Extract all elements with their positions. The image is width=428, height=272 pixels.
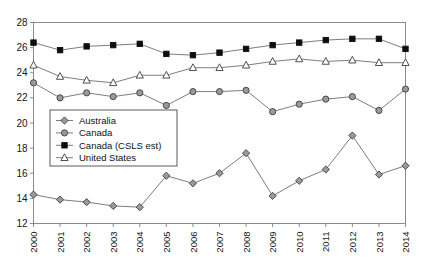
data-point-marker	[189, 64, 196, 71]
data-point-marker	[323, 37, 328, 42]
data-point-marker	[56, 73, 63, 80]
x-tick-label: 2006	[188, 232, 199, 253]
data-point-marker	[296, 101, 302, 107]
chart-legend: AustraliaCanadaCanada (CSLS est)United S…	[50, 110, 177, 166]
data-point-marker	[84, 90, 90, 96]
data-point-marker	[30, 61, 37, 68]
x-tick-label: 2013	[374, 232, 385, 253]
data-point-marker	[111, 42, 116, 47]
x-tick-label: 2010	[294, 232, 305, 253]
y-tick-label: 20	[16, 118, 28, 129]
series-canada	[30, 80, 408, 115]
data-point-marker	[62, 143, 67, 148]
data-point-marker	[270, 42, 275, 47]
data-point-marker	[402, 162, 409, 169]
y-tick-label: 18	[16, 143, 28, 154]
data-point-marker	[110, 94, 116, 100]
x-tick-label: 2002	[81, 232, 92, 253]
series-canada-csls-est	[31, 36, 408, 58]
data-point-marker	[57, 47, 62, 52]
legend-item-label: Canada	[79, 127, 113, 138]
data-point-marker	[243, 87, 249, 93]
data-point-marker	[270, 109, 276, 115]
data-point-marker	[61, 130, 67, 136]
data-point-marker	[376, 107, 382, 113]
x-tick-label: 2014	[400, 232, 411, 253]
data-point-marker	[30, 191, 37, 198]
x-tick-label: 2000	[28, 232, 39, 253]
x-tick-label: 2012	[347, 232, 358, 253]
y-tick-label: 14	[16, 193, 28, 204]
y-tick-label: 26	[16, 42, 28, 53]
data-point-marker	[297, 40, 302, 45]
data-point-marker	[269, 192, 276, 199]
data-point-marker	[402, 86, 408, 92]
data-point-marker	[190, 88, 196, 94]
data-point-marker	[350, 36, 355, 41]
y-tick-label: 16	[16, 168, 28, 179]
data-point-marker	[217, 50, 222, 55]
chart-plot-area: 121416182022242628 200020012002200320042…	[0, 0, 428, 272]
y-tick-label: 28	[16, 17, 28, 28]
data-point-marker	[110, 202, 117, 209]
data-point-marker	[402, 59, 409, 66]
legend-item-label: Australia	[79, 115, 117, 126]
data-point-marker	[30, 80, 36, 86]
x-tick-label: 2007	[214, 232, 225, 253]
y-tick-label: 22	[16, 92, 28, 103]
data-point-marker	[375, 171, 382, 178]
legend-item-label: United States	[79, 152, 136, 163]
data-point-marker	[137, 41, 142, 46]
x-tick-label: 2009	[267, 232, 278, 253]
data-point-marker	[137, 90, 143, 96]
x-tick-label: 2008	[241, 232, 252, 253]
data-point-marker	[296, 177, 303, 184]
data-point-marker	[190, 52, 195, 57]
data-point-marker	[84, 44, 89, 49]
data-point-marker	[136, 71, 143, 78]
legend-item-label: Canada (CSLS est)	[79, 140, 161, 151]
data-point-marker	[31, 40, 36, 45]
line-chart: 121416182022242628 200020012002200320042…	[0, 0, 428, 272]
data-point-marker	[243, 46, 248, 51]
y-axis: 121416182022242628	[16, 17, 33, 229]
x-tick-label: 2011	[320, 232, 331, 252]
x-tick-label: 2005	[161, 232, 172, 253]
data-point-marker	[403, 46, 408, 51]
series-united-states	[30, 55, 409, 86]
y-tick-label: 12	[16, 218, 28, 229]
data-point-marker	[83, 199, 90, 206]
data-point-marker	[57, 95, 63, 101]
data-point-marker	[242, 150, 249, 157]
data-point-marker	[216, 88, 222, 94]
x-tick-label: 2003	[108, 232, 119, 253]
data-point-marker	[216, 170, 223, 177]
data-point-marker	[164, 51, 169, 56]
data-point-marker	[296, 55, 303, 62]
x-tick-label: 2001	[55, 232, 66, 253]
data-point-marker	[349, 56, 356, 63]
data-point-marker	[56, 196, 63, 203]
data-point-marker	[163, 102, 169, 108]
data-point-marker	[323, 96, 329, 102]
data-point-marker	[189, 180, 196, 187]
data-point-marker	[376, 36, 381, 41]
y-tick-label: 24	[16, 67, 28, 78]
x-axis: 2000200120022003200420052006200720082009…	[28, 224, 411, 253]
x-tick-label: 2004	[134, 232, 145, 253]
data-point-marker	[349, 94, 355, 100]
